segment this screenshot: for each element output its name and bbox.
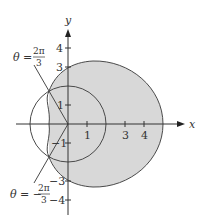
y-tick-label-3: 3 <box>56 61 63 74</box>
lower-theta-num: 2π <box>38 183 50 193</box>
y-tick-label-neg3: −3 <box>49 175 65 188</box>
lower-theta-den: 3 <box>41 195 47 205</box>
upper-theta-den: 3 <box>36 58 42 68</box>
x-tick-label-1: 1 <box>84 129 91 142</box>
x-tick-label-4: 4 <box>141 129 148 142</box>
x-axis-arrow-icon <box>177 121 185 127</box>
polar-region-diagram: x y 1 3 4 4 3 1 −1 −3 −4 θ = 2π 3 θ = − … <box>0 0 202 224</box>
y-tick-label-1: 1 <box>57 99 64 112</box>
upper-theta-lhs: θ = <box>13 51 32 64</box>
y-tick-label-neg1: −1 <box>51 137 67 150</box>
y-tick-label-neg4: −4 <box>49 194 65 207</box>
x-axis-label: x <box>189 118 196 131</box>
y-axis-label: y <box>64 14 72 27</box>
x-tick-label-3: 3 <box>122 129 129 142</box>
upper-theta-num: 2π <box>33 46 45 56</box>
y-axis-arrow-icon <box>65 29 71 37</box>
y-tick-label-4: 4 <box>56 42 63 55</box>
